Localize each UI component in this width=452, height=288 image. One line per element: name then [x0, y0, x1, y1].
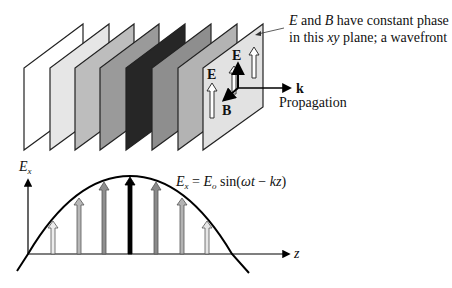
- field-arrow-1: [48, 221, 58, 254]
- graph: Ex z Ex = Eo sin(ωt − kz): [17, 159, 300, 273]
- field-arrow-3: [99, 182, 109, 254]
- field-arrow-4: [125, 177, 135, 254]
- wavefront-planes: [24, 24, 263, 150]
- field-arrow-7: [202, 221, 212, 254]
- z-axis-label: z: [293, 246, 300, 261]
- annotation-line-2: in this xy plane; a wavefront: [289, 30, 447, 45]
- field-arrow-6: [177, 198, 187, 254]
- e-vector-label: E: [232, 48, 241, 63]
- annotation-line-1: E and B have constant phase: [288, 13, 449, 28]
- b-vector-label: B: [222, 103, 231, 118]
- wavefront-annotation: E and B have constant phase in this xy p…: [255, 13, 449, 45]
- propagation-label: Propagation: [279, 95, 347, 110]
- e-side-label: E: [207, 67, 216, 82]
- plane-wave-diagram: E E B k Propagation E and B have constan…: [0, 0, 452, 288]
- field-arrow-2: [74, 198, 84, 254]
- field-arrow-5: [151, 182, 161, 254]
- wave-equation: Ex = Eo sin(ωt − kz): [175, 174, 286, 191]
- k-vector-label: k: [296, 81, 304, 96]
- y-axis-label: Ex: [18, 159, 32, 176]
